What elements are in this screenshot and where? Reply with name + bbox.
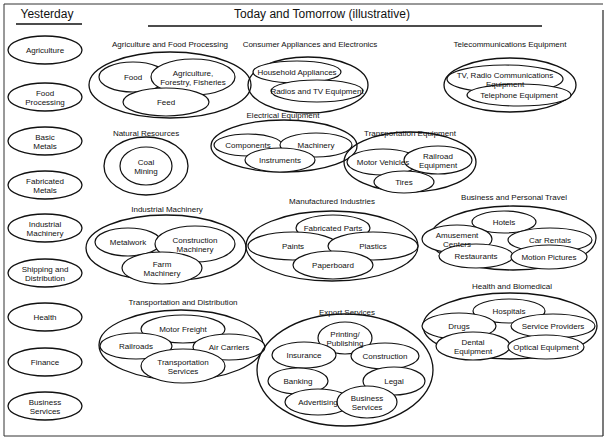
today-groups: Agriculture and Food ProcessingFoodAgric…	[86, 40, 597, 426]
group-consumer-appliances-and-electronics: Consumer Appliances and ElectronicsHouse…	[243, 40, 378, 113]
ellipse-label: Machinery	[27, 229, 64, 238]
ellipse-label: Service Providers	[522, 322, 585, 331]
ellipse-label: Radios and TV Equipment	[270, 87, 364, 96]
group-manufactured-industries: Manufactured IndustriesFabricated PartsP…	[246, 197, 418, 281]
ellipse-label: Basic	[35, 133, 55, 142]
ellipse-label: Restaurants	[454, 252, 497, 261]
ellipse-label: Feed	[157, 98, 175, 107]
group-industrial-machinery: Industrial MachineryMetalworkConstructio…	[86, 205, 246, 284]
group-title: Business and Personal Travel	[461, 193, 567, 202]
ellipse-label: Coal	[138, 158, 155, 167]
ellipse-label: Banking	[284, 377, 313, 386]
ellipse-label: Hotels	[493, 218, 516, 227]
group-electrical-equipment: Electrical EquipmentComponentsMachineryI…	[211, 111, 357, 172]
ellipse-label: Metalwork	[110, 238, 147, 247]
ellipse-label: Services	[352, 403, 383, 412]
ellipse-label: Distribution	[25, 274, 65, 283]
ellipse-label: Telephone Equipment	[480, 91, 558, 100]
ellipse-label: Household Appliances	[257, 68, 336, 77]
group-transportation-equipment: Transportation EquipmentMotor VehiclesRa…	[344, 129, 476, 193]
ellipse-label: Machinery	[298, 141, 335, 150]
yesterday-item-shipping-and-distribution: Shipping andDistribution	[8, 259, 82, 287]
ellipse-label: Farm	[153, 260, 172, 269]
ellipse-label: Business	[351, 394, 383, 403]
diagram-canvas: Yesterday Today and Tomorrow (illustrati…	[0, 0, 607, 440]
ellipse-label: Food	[36, 89, 54, 98]
ellipse-label: Car Rentals	[529, 236, 571, 245]
yesterday-item-food-processing: FoodProcessing	[8, 83, 82, 111]
ellipse-label: Amusement	[436, 231, 479, 240]
group-title: Agriculture and Food Processing	[112, 40, 228, 49]
ellipse-label: Motion Pictures	[521, 253, 576, 262]
ellipse-label: Motor Freight	[159, 325, 207, 334]
ellipse-label: Railroads	[119, 342, 153, 351]
yesterday-header: Yesterday	[21, 7, 74, 21]
yesterday-item-agriculture: Agriculture	[8, 36, 82, 64]
group-natural-resources: Natural ResourcesCoalMining	[104, 129, 188, 195]
ellipse-label: Insurance	[286, 351, 322, 360]
ellipse-label: Components	[225, 141, 270, 150]
ellipse-label: Equipment	[454, 347, 493, 356]
ellipse-label: Industrial	[29, 220, 62, 229]
ellipse-label: Processing	[25, 98, 65, 107]
ellipse-label: Tires	[395, 178, 412, 187]
ellipse-label: Metals	[33, 142, 57, 151]
group-title: Consumer Appliances and Electronics	[243, 40, 378, 49]
ellipse-label: Business	[29, 398, 61, 407]
group-business-and-personal-travel: Business and Personal TravelHotelsAmusem…	[422, 193, 596, 270]
yesterday-item-finance: Finance	[8, 348, 82, 376]
group-title: Manufactured Industries	[289, 197, 375, 206]
ellipse-label: Instruments	[259, 156, 301, 165]
group-title: Industrial Machinery	[131, 205, 203, 214]
ellipse-label: Shipping and	[22, 265, 69, 274]
yesterday-item-business-services: BusinessServices	[8, 392, 82, 420]
group-title: Electrical Equipment	[247, 111, 321, 120]
ellipse-label: Finance	[31, 358, 60, 367]
yesterday-item-basic-metals: BasicMetals	[8, 127, 82, 155]
ellipse-label: Transportation	[157, 358, 208, 367]
today-header: Today and Tomorrow (illustrative)	[234, 7, 410, 21]
group-agriculture-and-food-processing: Agriculture and Food ProcessingFoodAgric…	[89, 40, 251, 118]
ellipse-label: Publishing	[327, 339, 364, 348]
ellipse-label: Fabricated	[26, 177, 64, 186]
group-title: Transportation Equipment	[364, 129, 457, 138]
group-telecommunications-equipment: Telecommunications EquipmentTV, Radio Co…	[444, 40, 576, 112]
ellipse-label: Health	[33, 313, 56, 322]
ellipse-label: Paints	[282, 242, 304, 251]
ellipse-label: Forestry, Fisheries	[160, 78, 226, 87]
ellipse-label: Hospitals	[493, 307, 526, 316]
ellipse-label: Optical Equipment	[513, 343, 579, 352]
ellipse-label: Services	[30, 407, 61, 416]
ellipse-label: TV, Radio Communications	[457, 71, 554, 80]
ellipse-label: Paperboard	[312, 261, 354, 270]
group-transportation-and-distribution: Transportation and DistributionMotor Fre…	[99, 298, 265, 383]
ellipse-label: Equipment	[419, 161, 458, 170]
yesterday-column: AgricultureFoodProcessingBasicMetalsFabr…	[8, 36, 82, 420]
ellipse-label: Drugs	[448, 322, 469, 331]
ellipse-label: Equipment	[486, 80, 525, 89]
ellipse-label: Motor Vehicles	[357, 158, 409, 167]
ellipse-label: Legal	[384, 377, 404, 386]
group-title: Transportation and Distribution	[128, 298, 237, 307]
ellipse-label: Food	[124, 73, 142, 82]
group-title: Telecommunications Equipment	[454, 40, 568, 49]
group-export-services: Export ServicesPrinting/PublishingInsura…	[257, 308, 433, 426]
ellipse-label: Construction	[363, 352, 408, 361]
ellipse-label: Services	[168, 367, 199, 376]
ellipse-label: Mining	[134, 167, 158, 176]
ellipse-label: Fabricated Parts	[304, 224, 363, 233]
ellipse-label: Agriculture,	[173, 69, 213, 78]
yesterday-item-industrial-machinery: IndustrialMachinery	[8, 214, 82, 242]
ellipse-label: Printing/	[330, 330, 360, 339]
group-title: Health and Biomedical	[472, 282, 552, 291]
yesterday-item-fabricated-metals: FabricatedMetals	[8, 171, 82, 199]
ellipse-label: Agriculture	[26, 46, 65, 55]
yesterday-item-health: Health	[8, 303, 82, 331]
ellipse-label: Plastics	[359, 242, 387, 251]
ellipse-label: Dental	[461, 338, 484, 347]
ellipse-label: Air Carriers	[209, 343, 249, 352]
ellipse-label: Machinery	[177, 245, 214, 254]
ellipse-label: Metals	[33, 186, 57, 195]
ellipse-label: Advertising	[298, 398, 338, 407]
group-health-and-biomedical: Health and BiomedicalHospitalsDrugsServi…	[422, 282, 597, 360]
